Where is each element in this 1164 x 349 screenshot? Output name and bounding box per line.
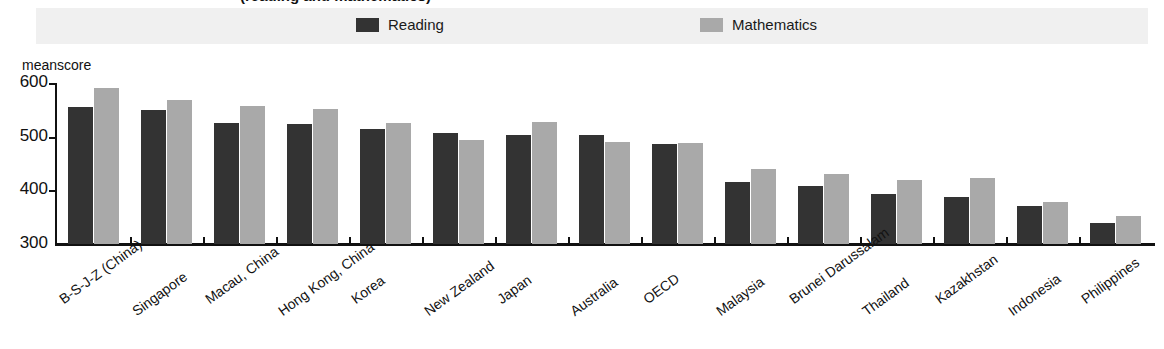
bar-reading[interactable] [579, 135, 604, 244]
bar-group [68, 83, 119, 244]
bar-mathematics[interactable] [167, 100, 192, 244]
bar-mathematics[interactable] [897, 180, 922, 244]
bar-reading[interactable] [68, 107, 93, 244]
y-axis-tick-label: 300 [4, 233, 48, 253]
bar-group [1017, 83, 1068, 244]
y-axis-tick-mark [49, 190, 56, 192]
x-axis-category-label: B-S-J-Z (China) [56, 236, 145, 307]
bar-mathematics[interactable] [751, 169, 776, 244]
bar-reading[interactable] [214, 123, 239, 244]
bar-mathematics[interactable] [532, 122, 557, 244]
x-axis-category-label: Philippines [1078, 254, 1142, 307]
bar-group [141, 83, 192, 244]
x-axis-tick-mark [276, 237, 278, 244]
bar-group [506, 83, 557, 244]
x-axis-category-label: Indonesia [1005, 270, 1064, 319]
x-axis-tick-mark [568, 237, 570, 244]
x-axis-tick-mark [787, 237, 789, 244]
bar-group [579, 83, 630, 244]
bar-mathematics[interactable] [824, 174, 849, 244]
x-axis-tick-mark [349, 237, 351, 244]
bar-reading[interactable] [1017, 206, 1042, 244]
bar-group [287, 83, 338, 244]
x-axis-tick-mark [860, 237, 862, 244]
chart-plot-area: meanscore B-S-J-Z (China)SingaporeMacau,… [0, 0, 1164, 349]
x-axis-category-label: Korea [348, 272, 388, 307]
bar-mathematics[interactable] [313, 109, 338, 244]
x-axis-category-label: Macau, China [202, 243, 281, 307]
x-axis-tick-mark [1006, 237, 1008, 244]
x-axis-tick-mark [714, 237, 716, 244]
bar-mathematics[interactable] [459, 140, 484, 244]
x-axis-category-label: Kazakhstan [932, 251, 1001, 307]
bar-mathematics[interactable] [605, 142, 630, 245]
bar-mathematics[interactable] [1116, 216, 1141, 244]
bar-reading[interactable] [287, 124, 312, 244]
bar-mathematics[interactable] [970, 178, 995, 244]
x-axis-category-label: Malaysia [713, 274, 767, 319]
y-axis-tick-label: 600 [4, 72, 48, 92]
bar-mathematics[interactable] [386, 123, 411, 244]
x-axis-tick-mark [130, 237, 132, 244]
y-axis-tick-mark [49, 83, 56, 85]
x-axis-category-label: Thailand [859, 274, 912, 319]
x-axis-tick-mark [933, 237, 935, 244]
y-axis-tick-label: 400 [4, 179, 48, 199]
category-labels-layer: B-S-J-Z (China)SingaporeMacau, ChinaHong… [0, 248, 1164, 349]
bar-group [360, 83, 411, 244]
x-axis-category-label: New Zealand [421, 258, 497, 319]
bar-reading[interactable] [652, 144, 677, 244]
bar-mathematics[interactable] [1043, 202, 1068, 244]
bar-reading[interactable] [506, 135, 531, 244]
bar-reading[interactable] [725, 182, 750, 244]
y-axis-tick-mark [49, 137, 56, 139]
bar-reading[interactable] [433, 133, 458, 244]
bar-reading[interactable] [1090, 223, 1115, 244]
bar-group [871, 83, 922, 244]
bar-group [433, 83, 484, 244]
bars-layer [0, 83, 1164, 244]
bar-mathematics[interactable] [94, 88, 119, 244]
bar-group [944, 83, 995, 244]
bar-reading[interactable] [944, 197, 969, 244]
bar-group [798, 83, 849, 244]
bar-reading[interactable] [141, 110, 166, 244]
x-axis-tick-mark [203, 237, 205, 244]
x-axis-tick-mark [641, 237, 643, 244]
x-axis-tick-mark [495, 237, 497, 244]
y-axis-unit-label: meanscore [22, 57, 91, 73]
x-axis-tick-mark [422, 237, 424, 244]
bar-group [725, 83, 776, 244]
x-axis-category-label: OECD [640, 270, 682, 307]
bar-group [1090, 83, 1141, 244]
y-axis-tick-label: 500 [4, 126, 48, 146]
x-axis-category-label: Australia [567, 274, 620, 319]
x-axis-category-label: Singapore [129, 268, 190, 318]
bar-group [652, 83, 703, 244]
bar-mathematics[interactable] [240, 106, 265, 244]
x-axis-tick-mark [1079, 237, 1081, 244]
x-axis-category-label: Japan [494, 272, 534, 307]
x-axis-category-label: Hong Kong, China [275, 239, 377, 319]
bar-reading[interactable] [798, 186, 823, 244]
bar-reading[interactable] [360, 129, 385, 244]
bar-mathematics[interactable] [678, 143, 703, 244]
bar-group [214, 83, 265, 244]
